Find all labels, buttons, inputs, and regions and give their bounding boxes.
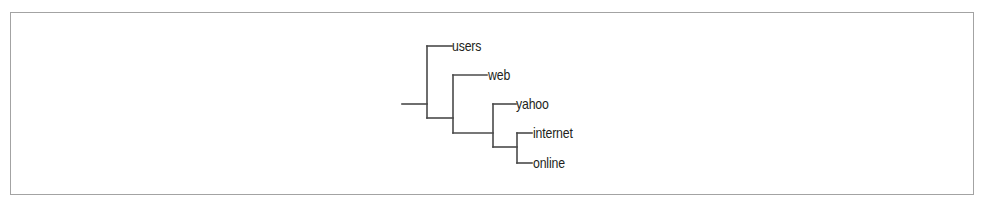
leaf-label-users: users xyxy=(452,38,481,53)
dendrogram xyxy=(0,0,986,201)
leaf-label-web: web xyxy=(488,67,510,82)
leaf-label-online: online xyxy=(533,155,565,170)
leaf-label-yahoo: yahoo xyxy=(516,96,549,111)
leaf-label-internet: internet xyxy=(533,125,573,140)
